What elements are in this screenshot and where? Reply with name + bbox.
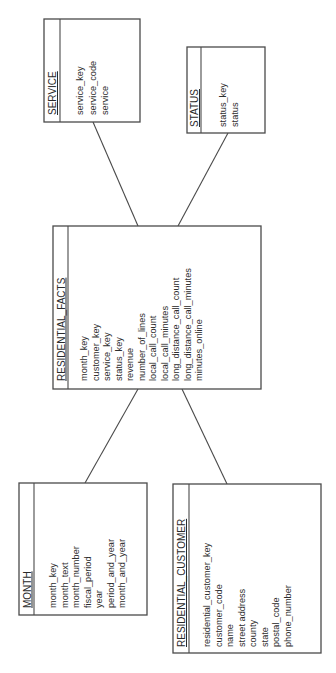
field: month_key — [48, 563, 58, 608]
field: state — [260, 627, 270, 647]
relationship-status-facts — [178, 133, 228, 226]
field: customer_code — [214, 584, 224, 647]
entity-residential-customer[interactable]: RESIDENTIAL_CUSTOMER residential_custome… — [173, 484, 321, 653]
field: long_distance_call_count — [171, 277, 181, 381]
field: status_key — [114, 337, 124, 381]
field: period_and_year — [106, 539, 116, 608]
field: number_of_lines — [137, 313, 147, 381]
field: service — [100, 86, 110, 115]
entity-service[interactable]: SERVICE service_key service_code service — [44, 19, 140, 122]
entity-title: RESIDENTIAL_CUSTOMER — [176, 519, 187, 647]
field: revenue — [125, 348, 135, 381]
entity-title: RESIDENTIAL_FACTS — [56, 277, 67, 381]
entity-month[interactable]: MONTH month_key month_text month_number … — [19, 483, 147, 615]
entity-box — [173, 484, 321, 653]
relationship-service-facts — [93, 122, 138, 226]
field: name — [225, 624, 235, 647]
relationship-month-facts — [85, 389, 138, 483]
entity-title: MONTH — [22, 571, 33, 608]
entity-residential-facts[interactable]: RESIDENTIAL_FACTS month_key customer_key… — [53, 226, 261, 389]
entity-title: STATUS — [189, 89, 200, 127]
field: service_key — [102, 332, 112, 381]
field: local_call_count — [148, 315, 158, 381]
field: county — [248, 620, 258, 647]
field: customer_key — [91, 323, 101, 381]
field: status — [230, 102, 240, 127]
star-schema-diagram: SERVICE service_key service_code service… — [0, 0, 336, 673]
field: month_key — [79, 336, 89, 381]
field: phone_number — [283, 585, 293, 647]
entity-status[interactable]: STATUS status_key status — [187, 47, 265, 133]
field: minutes_online — [194, 319, 204, 381]
field: month_and_year — [117, 539, 127, 608]
field: fiscal_period — [83, 556, 93, 608]
field: residential_customer_key — [202, 542, 212, 647]
field: postal_code — [271, 597, 281, 647]
field: month_text — [60, 562, 70, 608]
field: local_call_minutes — [160, 306, 170, 381]
field: service_code — [88, 61, 98, 115]
field: service_key — [75, 66, 85, 115]
field: month_number — [71, 546, 81, 608]
relationship-customer-facts — [182, 389, 227, 484]
field: year — [94, 590, 104, 608]
field: status_key — [218, 83, 228, 127]
field: street address — [237, 588, 247, 647]
entity-title: SERVICE — [47, 71, 58, 115]
field: long_distance_call_minutes — [183, 268, 193, 381]
